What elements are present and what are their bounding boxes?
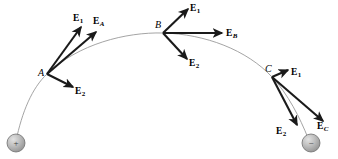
vector-b-e1-label-base: E: [190, 3, 196, 13]
vector-a-ea-label: EA: [93, 17, 104, 28]
vector-a-e1-label-base: E: [73, 13, 79, 23]
positive-charge-sign: +: [10, 139, 22, 148]
field-line-group: [16, 33, 308, 141]
vector-c-e1-label-base: E: [291, 67, 297, 77]
vector-b-e1-label-subscript: 1: [197, 7, 201, 15]
vector-b-eb-label-subscript: B: [233, 32, 238, 40]
vector-c-ec-label: EC: [317, 122, 328, 133]
vector-a-e1-label: E1: [73, 14, 83, 25]
vector-a-ea: [47, 32, 96, 74]
field-line-diagram: +−ABCE1EAE2E1EBE2E1E2EC: [0, 0, 338, 159]
diagram-canvas: [0, 0, 338, 159]
vector-b-e1-label: E1: [190, 4, 200, 15]
vector-b-e2-label-base: E: [189, 58, 195, 68]
vector-c-e1-label-subscript: 1: [298, 71, 302, 79]
vector-a-e2: [47, 74, 73, 87]
field-line: [16, 33, 308, 141]
vector-c-e1: [272, 70, 288, 77]
point-c-label: C: [265, 64, 272, 74]
vector-b-e2-label-subscript: 2: [196, 62, 200, 70]
vector-b-e2-label: E2: [189, 59, 199, 70]
charges-group: [7, 134, 320, 152]
vector-c-e2: [272, 77, 297, 125]
vectors-group: [47, 9, 323, 125]
vector-c-e2-label-subscript: 2: [283, 130, 287, 138]
vector-a-e2-label-base: E: [75, 86, 81, 96]
vector-b-eb-label: EB: [226, 29, 237, 40]
vector-a-e2-label: E2: [75, 87, 85, 98]
vector-c-e2-label: E2: [276, 127, 286, 138]
point-a-label: A: [38, 68, 44, 78]
vector-c-ec-label-base: E: [317, 121, 323, 131]
vector-c-ec-label-subscript: C: [324, 125, 329, 133]
vector-a-ea-label-base: E: [93, 16, 99, 26]
negative-charge-sign: −: [305, 139, 317, 148]
vector-a-ea-label-subscript: A: [100, 20, 105, 28]
point-b-label: B: [155, 20, 161, 30]
vector-b-e1: [163, 9, 188, 33]
vector-c-e1-label: E1: [291, 68, 301, 79]
vector-c-e2-label-base: E: [276, 126, 282, 136]
vector-b-eb-label-base: E: [226, 28, 232, 38]
vector-a-e2-label-subscript: 2: [82, 90, 86, 98]
vector-a-e1-label-subscript: 1: [80, 17, 84, 25]
vector-b-e2: [163, 33, 187, 59]
